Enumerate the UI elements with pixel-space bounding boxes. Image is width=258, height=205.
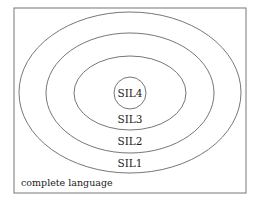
sil-nested-diagram: SIL4 SIL3 SIL2 SIL1 complete language xyxy=(0,0,258,205)
sil1-label: SIL1 xyxy=(118,157,143,169)
sil3-label: SIL3 xyxy=(118,113,143,125)
complete-language-label: complete language xyxy=(21,177,113,188)
sil4-label: SIL4 xyxy=(118,87,143,99)
sil2-label: SIL2 xyxy=(118,135,143,147)
